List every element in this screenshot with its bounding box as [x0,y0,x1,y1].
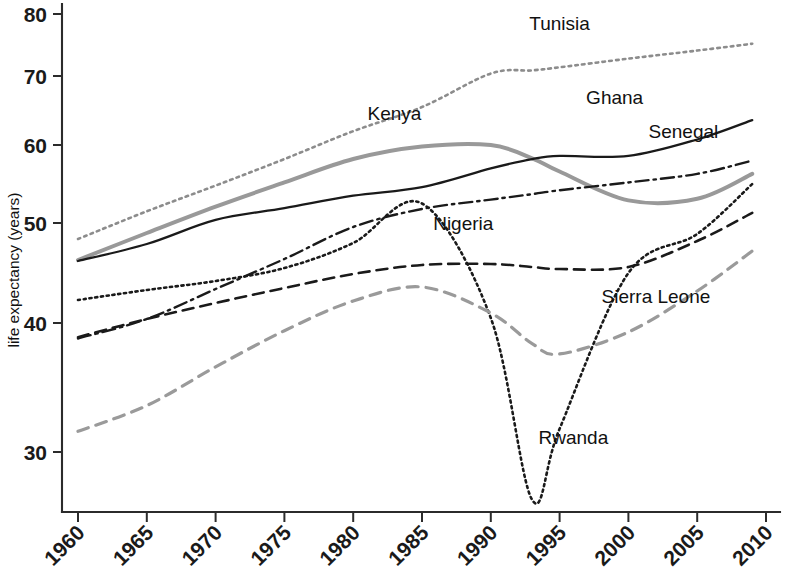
x-tick-label-1975: 1975 [246,520,296,570]
x-tick-label-2000: 2000 [590,521,639,570]
series-label-sierra-leone: Sierra Leone [602,286,711,307]
x-tick-label-2010: 2010 [728,521,777,570]
x-tick-label-1990: 1990 [452,521,501,570]
y-tick-label-70: 70 [24,65,47,88]
axis-layer [53,4,780,522]
x-tick-label-1980: 1980 [315,521,364,570]
x-tick-label-1985: 1985 [384,520,434,570]
y-tick-label-60: 60 [24,134,47,157]
x-tick-label-2005: 2005 [659,520,709,570]
y-tick-label-50: 50 [24,212,47,235]
series-line-sierra-leone [78,251,752,431]
x-tick-label-1970: 1970 [177,521,226,570]
series-label-layer: TunisiaKenyaGhanaSenegalNigeriaRwandaSie… [368,13,719,449]
chart-plot-area: 8070605040301960196519701975198019851990… [0,0,790,571]
x-tick-label-1995: 1995 [521,520,571,570]
life-expectancy-chart: 8070605040301960196519701975198019851990… [0,0,790,571]
series-label-ghana: Ghana [586,87,643,108]
y-tick-label-30: 30 [24,441,47,464]
axis-title-layer: life expectancy (years) [5,192,22,347]
y-tick-label-80: 80 [24,3,47,26]
series-label-kenya: Kenya [368,103,422,124]
series-label-rwanda: Rwanda [539,427,609,448]
x-tick-label-1960: 1960 [40,521,89,570]
series-label-tunisia: Tunisia [529,13,590,34]
series-label-nigeria: Nigeria [433,213,494,234]
series-label-senegal: Senegal [649,121,719,142]
y-tick-label-40: 40 [24,312,47,335]
y-axis-title: life expectancy (years) [5,192,22,347]
x-tick-label-1965: 1965 [108,520,158,570]
